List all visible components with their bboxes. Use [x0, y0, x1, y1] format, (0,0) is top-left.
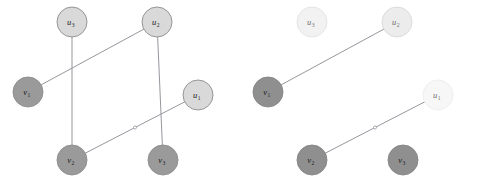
graph-node-u2[interactable]: u2 [382, 7, 412, 37]
graph-node-v1[interactable]: v1 [253, 77, 283, 107]
graph-node-u1[interactable]: u1 [183, 80, 213, 110]
nodes-layer: u3u2v1u1v2v3u3u2v1u1v2v3 [13, 7, 453, 175]
node-circle-v1[interactable] [253, 77, 283, 107]
node-circle-u3[interactable] [57, 7, 87, 37]
node-circle-v1[interactable] [13, 77, 43, 107]
graph-node-v3[interactable]: v3 [388, 145, 418, 175]
node-circle-u2[interactable] [382, 7, 412, 37]
graph-node-v2[interactable]: v2 [297, 145, 327, 175]
graph-node-v2[interactable]: v2 [57, 145, 87, 175]
graph-node-v3[interactable]: v3 [148, 145, 178, 175]
graph-edge-v1-u2 [40, 29, 144, 86]
edge-midpoint-marker [374, 126, 377, 129]
edges-layer [40, 29, 425, 154]
figure-root: u3u2v1u1v2v3u3u2v1u1v2v3 [0, 0, 480, 188]
edge-midpoint-marker [134, 126, 137, 129]
node-circle-u1[interactable] [183, 80, 213, 110]
graph-node-v1[interactable]: v1 [13, 77, 43, 107]
node-circle-v3[interactable] [388, 145, 418, 175]
node-circle-v2[interactable] [57, 145, 87, 175]
graph-edge-u2-v3 [158, 36, 163, 146]
node-circle-u2[interactable] [142, 7, 172, 37]
graph-node-u2[interactable]: u2 [142, 7, 172, 37]
graph-node-u3[interactable]: u3 [297, 7, 327, 37]
graph-canvas: u3u2v1u1v2v3u3u2v1u1v2v3 [0, 0, 480, 188]
node-circle-v3[interactable] [148, 145, 178, 175]
node-circle-v2[interactable] [297, 145, 327, 175]
node-circle-u3[interactable] [297, 7, 327, 37]
graph-node-u1[interactable]: u1 [423, 80, 453, 110]
graph-edge-v1-u2 [280, 29, 384, 86]
node-circle-u1[interactable] [423, 80, 453, 110]
graph-node-u3[interactable]: u3 [57, 7, 87, 37]
